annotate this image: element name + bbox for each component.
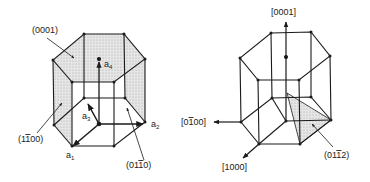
label-a3: a3 <box>82 111 91 122</box>
label-prism-plane-1-100: (1100) <box>18 134 43 144</box>
label-pyramidal-plane: (0112) <box>324 150 349 160</box>
label-direction-0-100: [0100] <box>181 117 206 127</box>
left-hexagonal-prism <box>37 33 147 161</box>
label-direction-1000: [1000] <box>222 162 247 172</box>
label-direction-0001: [0001] <box>271 7 296 17</box>
axis-a1 <box>73 124 99 146</box>
label-a2: a2 <box>151 119 160 130</box>
label-prism-plane-01-10: (0110) <box>126 160 151 170</box>
hexagonal-crystal-diagram: (0001) (1100) (0110) a1 a2 a3 a4 <box>0 0 370 182</box>
right-hexagonal-prism <box>214 22 333 158</box>
direction-1000 <box>243 144 259 158</box>
label-basal-plane: (0001) <box>32 25 58 35</box>
label-a1: a1 <box>66 150 75 161</box>
